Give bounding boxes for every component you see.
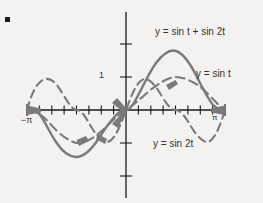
trig-sum-figure: y = sin t + sin 2t y = sin t y = sin 2t … xyxy=(0,0,263,203)
annotation-sin-2t-curve: y = sin 2t xyxy=(153,139,193,149)
x-axis-tick-label-pi: π xyxy=(212,114,218,122)
x-axis-tick-label-neg-pi: −π xyxy=(21,116,32,125)
annotation-sin-t-curve: y = sin t xyxy=(196,69,231,79)
annotation-sum-curve: y = sin t + sin 2t xyxy=(155,27,225,37)
y-axis-tick-label-one: 1 xyxy=(99,71,104,80)
